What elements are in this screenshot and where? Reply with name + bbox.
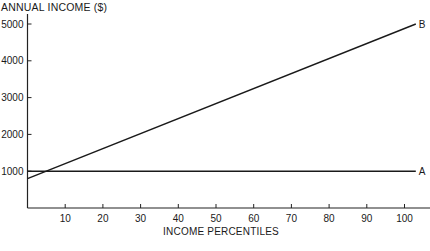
- y-tick-label: 5000: [1, 19, 24, 30]
- series-label-a: A: [419, 166, 426, 177]
- x-tick-label: 80: [324, 213, 336, 224]
- x-axis-title: INCOME PERCENTILES: [0, 226, 430, 237]
- y-tick-label: 2000: [1, 129, 24, 140]
- x-tick-label: 10: [60, 213, 72, 224]
- series-line-b: [28, 24, 416, 179]
- line-chart: 1000200030004000500010203040506070809010…: [0, 0, 430, 251]
- x-tick-label: 100: [396, 213, 413, 224]
- series-label-b: B: [419, 19, 426, 30]
- x-tick-label: 70: [286, 213, 298, 224]
- y-tick-label: 4000: [1, 55, 24, 66]
- y-tick-label: 3000: [1, 92, 24, 103]
- x-tick-label: 30: [135, 213, 147, 224]
- x-tick-label: 20: [97, 213, 109, 224]
- x-tick-label: 50: [210, 213, 222, 224]
- x-tick-label: 90: [361, 213, 373, 224]
- x-tick-label: 60: [248, 213, 260, 224]
- x-tick-label: 40: [173, 213, 185, 224]
- y-tick-label: 1000: [1, 166, 24, 177]
